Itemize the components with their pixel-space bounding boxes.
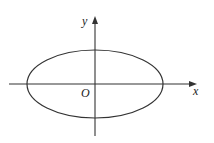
ellipse-diagram: y x O bbox=[0, 0, 214, 143]
x-axis-label: x bbox=[192, 84, 199, 98]
origin-label: O bbox=[81, 86, 90, 100]
y-axis-arrow-icon bbox=[92, 16, 98, 24]
y-axis-label: y bbox=[81, 14, 88, 28]
